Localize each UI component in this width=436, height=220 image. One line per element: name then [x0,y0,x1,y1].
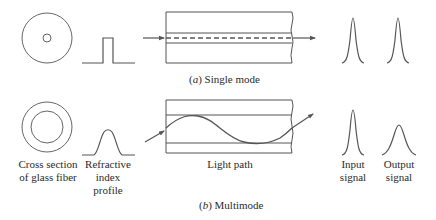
caption-text: Single mode [205,73,260,85]
label-line: Input [333,158,373,171]
label-line: Output [378,158,420,171]
label-line: Light path [200,158,260,171]
label-line: index [80,171,136,184]
label-line: Cross section [10,158,86,171]
label-cross-section: Cross section of glass fiber [10,158,86,184]
label-input-signal: Input signal [333,158,373,184]
label-line: signal [378,171,420,184]
core-circle [31,111,63,143]
fiber-diagram [0,0,436,220]
fiber-break-edge [291,12,293,63]
caption-letter: b [203,199,209,211]
core-circle [43,34,51,42]
fiber-break-edge [291,100,293,153]
multimode-fiber [166,100,293,153]
input-pulse-b [342,110,364,155]
graded-index-profile [82,130,135,155]
output-pulse-a [387,18,409,63]
label-line: signal [333,171,373,184]
label-line: Refractive [80,158,136,171]
cladding-circle [22,102,72,152]
output-arrow [292,114,313,128]
label-line: profile [80,184,136,197]
caption-multimode: (b) Multimode [199,199,263,211]
output-pulse-b-broadened [382,125,416,155]
single-mode-cross-section [22,13,72,63]
input-arrow [145,131,164,142]
label-light-path: Light path [200,158,260,171]
caption-text: Multimode [215,199,264,211]
label-output-signal: Output signal [378,158,420,184]
light-path-sinusoidal [166,116,292,144]
label-refractive-index-profile: Refractive index profile [80,158,136,197]
cladding-circle [22,13,72,63]
single-mode-fiber [166,12,293,63]
caption-single-mode: (a) Single mode [189,73,260,85]
caption-letter: a [193,73,199,85]
label-line: of glass fiber [10,171,86,184]
input-pulse-a [342,18,364,63]
step-index-profile [82,38,135,63]
multimode-cross-section [22,102,72,152]
